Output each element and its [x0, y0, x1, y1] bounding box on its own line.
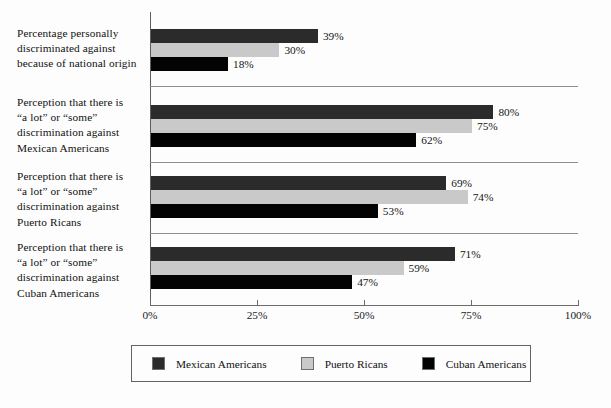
category-label-2: Perception that there is “a lot” or “som…	[17, 169, 149, 230]
category-label-line: Mexican Americans	[17, 141, 149, 156]
legend-swatch-icon	[152, 357, 165, 370]
x-tick-label: 25%	[247, 309, 268, 321]
plot-area: 0%25%50%75%100% 39%30%18%80%75%62%69%74%…	[150, 12, 578, 305]
x-tick-label: 75%	[461, 309, 482, 321]
category-label-line: “a lot” or “some”	[17, 184, 149, 199]
legend-label: Puerto Ricans	[325, 358, 388, 370]
x-tick	[471, 300, 472, 306]
group-separator-line	[150, 233, 578, 234]
bar-value-label: 18%	[233, 57, 254, 71]
bar-2-2[interactable]	[151, 204, 378, 218]
category-label-3: Perception that there is “a lot” or “som…	[17, 240, 149, 301]
category-label-line: “a lot” or “some”	[17, 110, 149, 125]
bar-3-1[interactable]	[151, 261, 404, 275]
bar-value-label: 74%	[473, 190, 494, 204]
category-label-1: Perception that there is “a lot” or “som…	[17, 95, 149, 156]
bar-3-0[interactable]	[151, 247, 455, 261]
x-tick	[578, 300, 579, 306]
category-label-line: discriminated against	[17, 41, 149, 56]
bar-value-label: 39%	[323, 29, 344, 43]
bar-value-label: 62%	[421, 133, 442, 147]
category-label-line: discrimination against	[17, 199, 149, 214]
bar-1-2[interactable]	[151, 133, 416, 147]
x-tick	[364, 300, 365, 306]
legend-swatch-icon	[422, 357, 435, 370]
category-label-line: because of national origin	[17, 56, 149, 71]
bar-value-label: 71%	[460, 247, 481, 261]
bar-1-1[interactable]	[151, 119, 472, 133]
category-label-line: Perception that there is	[17, 169, 149, 184]
legend-label: Cuban Americans	[446, 358, 527, 370]
legend-swatch-icon	[301, 357, 314, 370]
bar-2-0[interactable]	[151, 176, 446, 190]
group-separator-line	[150, 162, 578, 163]
category-label-line: discrimination against	[17, 125, 149, 140]
group-separator-line	[150, 86, 578, 87]
legend-item-0[interactable]: Mexican Americans	[152, 357, 267, 370]
category-label-line: Percentage personally	[17, 26, 149, 41]
bar-0-1[interactable]	[151, 43, 279, 57]
category-label-line: Puerto Ricans	[17, 215, 149, 230]
bar-0-2[interactable]	[151, 57, 228, 71]
bar-2-1[interactable]	[151, 190, 468, 204]
chart-legend: Mexican AmericansPuerto RicansCuban Amer…	[131, 345, 531, 382]
bar-value-label: 59%	[409, 261, 430, 275]
bar-3-2[interactable]	[151, 275, 352, 289]
bar-value-label: 80%	[498, 105, 519, 119]
x-tick-label: 50%	[354, 309, 375, 321]
category-label-line: Perception that there is	[17, 95, 149, 110]
legend-item-2[interactable]: Cuban Americans	[422, 357, 527, 370]
category-label-line: discrimination against	[17, 270, 149, 285]
legend-row: Mexican AmericansPuerto RicansCuban Amer…	[132, 346, 530, 381]
x-tick-label: 0%	[142, 309, 157, 321]
bar-value-label: 69%	[451, 176, 472, 190]
x-tick	[257, 300, 258, 306]
bar-1-0[interactable]	[151, 105, 493, 119]
x-tick-label: 100%	[565, 309, 591, 321]
category-label-0: Percentage personally discriminated agai…	[17, 26, 149, 72]
legend-item-1[interactable]: Puerto Ricans	[301, 357, 388, 370]
category-label-line: Cuban Americans	[17, 286, 149, 301]
bar-value-label: 47%	[357, 275, 378, 289]
category-label-line: Perception that there is	[17, 240, 149, 255]
bar-value-label: 30%	[284, 43, 305, 57]
bar-value-label: 75%	[477, 119, 498, 133]
x-tick	[150, 300, 151, 306]
legend-label: Mexican Americans	[176, 358, 267, 370]
chart-page: Percentage personally discriminated agai…	[0, 0, 611, 408]
bar-0-0[interactable]	[151, 29, 318, 43]
category-label-line: “a lot” or “some”	[17, 255, 149, 270]
bar-value-label: 53%	[383, 204, 404, 218]
